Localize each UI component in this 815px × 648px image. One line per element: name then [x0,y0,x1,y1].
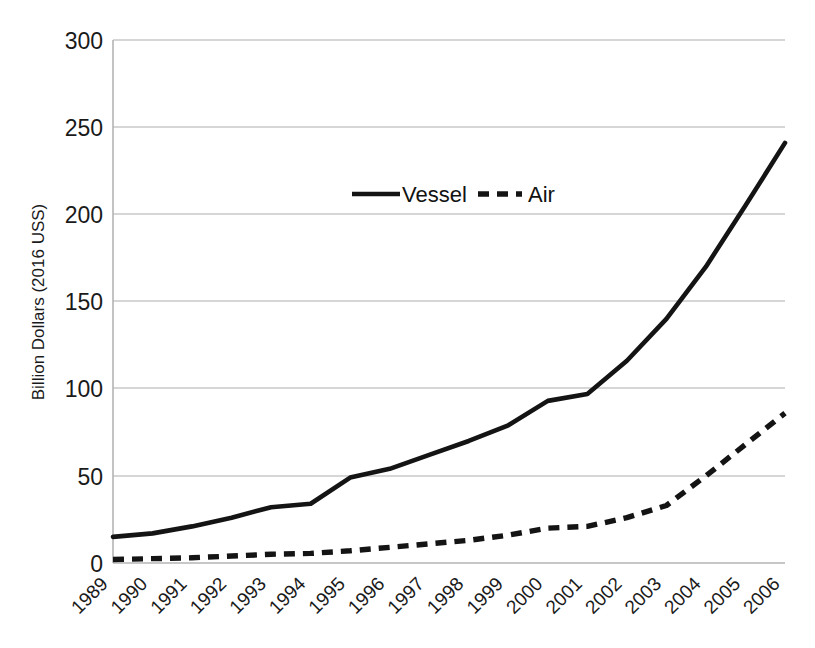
x-tick-label: 2002 [581,573,626,618]
x-tick-label: 1997 [383,573,428,618]
y-tick-label: 250 [65,115,103,141]
gridlines [113,40,785,476]
y-tick-label: 100 [65,376,103,402]
x-tick-label: 2006 [739,573,784,618]
x-tick-label: 2005 [700,573,745,618]
y-tick-label: 300 [65,28,103,54]
x-tick-label: 2003 [620,573,665,618]
x-tick-label: 1998 [423,573,468,618]
y-tick-labels: 300 250 200 150 100 50 0 [65,28,103,577]
x-tick-label: 1991 [146,573,191,618]
x-tick-label: 2001 [541,573,586,618]
chart-legend: Vessel Air [352,182,555,207]
x-tick-label: 1996 [344,573,389,618]
x-tick-label: 1992 [186,573,231,618]
x-tick-label: 1990 [107,573,152,618]
legend-label-air: Air [528,182,555,207]
chart-figure: Billion Dollars (2016 USS) 300 250 200 1… [0,0,815,648]
x-tick-label: 1999 [462,573,507,618]
x-tick-label: 1995 [304,573,349,618]
legend-label-vessel: Vessel [402,182,467,207]
y-axis-title: Billion Dollars (2016 USS) [29,204,48,401]
y-tick-label: 150 [65,289,103,315]
y-axis-title-text: Billion Dollars (2016 USS) [29,204,48,401]
line-chart: Billion Dollars (2016 USS) 300 250 200 1… [0,0,815,648]
x-tick-label: 1989 [67,573,112,618]
x-tick-label: 2004 [660,573,705,618]
x-tick-label: 1994 [265,573,310,618]
x-tick-labels: 1989199019911992199319941995199619971998… [67,573,784,618]
x-tick-label: 2000 [502,573,547,618]
y-tick-label: 200 [65,202,103,228]
y-tick-label: 50 [77,464,103,490]
x-tick-label: 1993 [225,573,270,618]
series-line-air [113,413,785,559]
